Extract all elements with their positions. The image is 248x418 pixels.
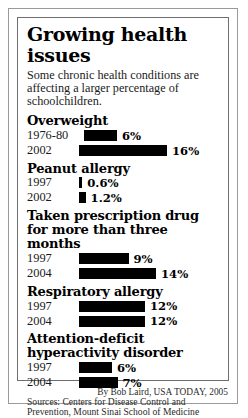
bar-row-label: 1997: [27, 300, 79, 313]
bar-row-label: 1976-80: [27, 129, 84, 142]
credit-line: By Bob Laird, USA TODAY, 2005: [97, 387, 228, 398]
bar-value-label: 0.6%: [87, 177, 118, 189]
page-title: Growing health issues: [27, 24, 221, 66]
bar-row: 200414%: [27, 267, 221, 281]
bar: [79, 145, 167, 156]
bar-row-label: 2004: [27, 267, 79, 280]
bar-value-label: 12%: [150, 315, 177, 327]
chart-section: Peanut allergy19970.6%20021.2%: [27, 162, 221, 205]
bar-row-label: 1997: [27, 176, 79, 189]
bar-row-label: 1997: [27, 252, 79, 265]
bar: [79, 177, 82, 188]
chart-section: Attention-deficit hyperactivity disorder…: [27, 332, 221, 390]
bar-value-label: 6%: [122, 130, 141, 142]
bar: [79, 268, 156, 279]
bar-row-label: 1997: [27, 361, 79, 374]
bar: [79, 301, 145, 312]
bar-row: 19976%: [27, 361, 221, 375]
section-title: Taken prescription drug for more than th…: [27, 209, 221, 252]
sources-note: Sources: Centers for Disease Control and…: [27, 397, 221, 418]
bar-row: 200412%: [27, 314, 221, 328]
bar: [79, 253, 129, 264]
subtitle-text: Some chronic health conditions are affec…: [27, 69, 221, 108]
bar-row-label: 2004: [27, 376, 79, 389]
section-title: Peanut allergy: [27, 162, 221, 176]
bar-value-label: 16%: [172, 145, 199, 157]
infographic-inner-frame: Growing health issues Some chronic healt…: [17, 17, 229, 381]
bar: [79, 316, 145, 327]
bar-value-label: 12%: [150, 300, 177, 312]
bar: [79, 192, 86, 203]
bar-value-label: 14%: [161, 268, 188, 280]
chart-section: Taken prescription drug for more than th…: [27, 209, 221, 281]
bar-row-label: 2004: [27, 315, 79, 328]
bar-row: 199712%: [27, 299, 221, 313]
section-title: Respiratory allergy: [27, 285, 221, 299]
bar-row: 20021.2%: [27, 191, 221, 205]
chart-section: Overweight1976-806%200216%: [27, 114, 221, 157]
bar-value-label: 9%: [134, 253, 153, 265]
bar-row: 1976-806%: [27, 129, 221, 143]
bar-row: 19979%: [27, 252, 221, 266]
chart-section: Respiratory allergy199712%200412%: [27, 285, 221, 328]
bar-row: 19970.6%: [27, 176, 221, 190]
bar-value-label: 6%: [117, 362, 136, 374]
infographic-content: Growing health issues Some chronic healt…: [27, 24, 221, 378]
bar-row-label: 2002: [27, 191, 79, 204]
bar-row-label: 2002: [27, 144, 79, 157]
bar-row: 200216%: [27, 144, 221, 158]
section-title: Attention-deficit hyperactivity disorder: [27, 332, 221, 361]
bar: [79, 362, 112, 373]
section-title: Overweight: [27, 114, 221, 128]
infographic-panel: Growing health issues Some chronic healt…: [8, 8, 238, 404]
chart-sections: Overweight1976-806%200216%Peanut allergy…: [27, 114, 221, 389]
bar-value-label: 1.2%: [91, 192, 122, 204]
bar: [84, 130, 117, 141]
